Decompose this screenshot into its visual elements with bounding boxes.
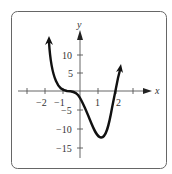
- y-axis-label: y: [76, 19, 82, 30]
- x-tick-label: 2: [116, 97, 121, 108]
- x-tick-label: 1: [95, 97, 100, 108]
- y-tick-label: −10: [56, 124, 72, 135]
- y-tick-label: −15: [56, 143, 72, 154]
- x-axis-label: x: [154, 85, 160, 96]
- y-tick-label: −5: [61, 105, 72, 116]
- x-tick-label: −2: [36, 97, 47, 108]
- y-tick-label: 10: [62, 50, 72, 61]
- function-graph: x y −2 −1 1 2 10 5 −5 −10 −15: [0, 0, 172, 174]
- y-tick-label: 5: [68, 68, 73, 79]
